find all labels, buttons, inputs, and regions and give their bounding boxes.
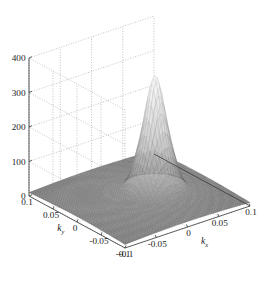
kx-tick-label: 0.1 bbox=[245, 207, 257, 217]
ky-tick-label: -0.05 bbox=[89, 236, 109, 246]
ky-tick-label: 0.05 bbox=[43, 210, 59, 220]
ky-tick-label: 0 bbox=[73, 223, 78, 233]
ky-tick-label: 0.1 bbox=[21, 197, 33, 207]
kx-axis-title: kx bbox=[201, 236, 208, 247]
z-tick-label: 100 bbox=[12, 157, 26, 167]
kx-axis-title-sub: x bbox=[204, 241, 208, 248]
ky-axis-title: ky bbox=[57, 223, 64, 234]
kx-tick-label: 0.05 bbox=[212, 218, 228, 228]
z-tick-label: 400 bbox=[12, 53, 26, 63]
kx-tick-label: 0 bbox=[186, 228, 191, 238]
grid-line-left-wall-horizontal bbox=[29, 93, 125, 145]
z-tick-label: 200 bbox=[12, 122, 26, 132]
kx-tick-label: -0.05 bbox=[148, 239, 168, 249]
surface-plot-canvas: 0100200300400-0.1-0.0500.050.1-0.1-0.050… bbox=[0, 0, 277, 283]
surface-plot-figure: 0100200300400-0.1-0.0500.050.1-0.1-0.050… bbox=[0, 0, 277, 283]
z-tick-label: 300 bbox=[12, 88, 26, 98]
kx-tick-label: -0.1 bbox=[119, 249, 134, 259]
ky-axis-title-sub: y bbox=[60, 228, 64, 235]
